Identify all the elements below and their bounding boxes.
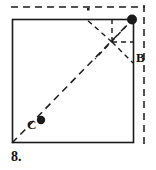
- point-c-label: C: [27, 118, 36, 131]
- crease-from-b-dashed-line: [95, 19, 133, 59]
- point-c-dot: [37, 116, 45, 124]
- figure-number-label: 8.: [11, 150, 22, 164]
- crease-upper-left-dashed-line: [86, 19, 112, 42]
- geometry-diagram: [0, 0, 156, 170]
- figure-container: B C 8.: [0, 0, 156, 170]
- crease-to-right-edge-dashed-line: [112, 42, 133, 63]
- top-guide-tick-mark: [87, 8, 90, 11]
- point-b-label: B: [136, 51, 145, 64]
- point-b-dot: [127, 15, 137, 25]
